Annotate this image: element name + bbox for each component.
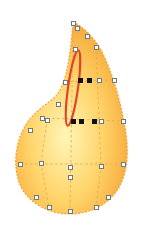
control-point-handle[interactable] <box>97 78 102 83</box>
control-point-handle[interactable] <box>121 119 126 124</box>
selected-control-point-handle[interactable] <box>92 119 97 124</box>
control-point-handle[interactable] <box>56 102 61 107</box>
control-point-handle[interactable] <box>34 195 39 200</box>
control-point-handle[interactable] <box>121 162 126 167</box>
selected-control-point-handle[interactable] <box>87 78 92 83</box>
control-point-handle[interactable] <box>99 164 104 169</box>
control-point-handle[interactable] <box>68 209 73 214</box>
control-point-handle[interactable] <box>73 47 78 52</box>
control-point-handle[interactable] <box>18 162 23 167</box>
control-point-handle[interactable] <box>106 195 111 200</box>
control-point-handle[interactable] <box>99 119 104 124</box>
selected-control-point-handle[interactable] <box>71 119 76 124</box>
control-point-handle[interactable] <box>112 78 117 83</box>
control-point-handle[interactable] <box>28 128 33 133</box>
control-point-handle[interactable] <box>75 26 80 31</box>
control-point-handle[interactable] <box>94 45 99 50</box>
selected-control-point-handle[interactable] <box>78 78 83 83</box>
control-point-handle[interactable] <box>47 205 52 210</box>
selected-control-point-handle[interactable] <box>79 119 84 124</box>
control-point-handle[interactable] <box>68 165 73 170</box>
control-point-handle[interactable] <box>68 175 73 180</box>
control-point-handle[interactable] <box>63 80 68 85</box>
control-point-handle[interactable] <box>85 34 90 39</box>
control-point-handle[interactable] <box>39 161 44 166</box>
control-point-handle[interactable] <box>94 205 99 210</box>
mesh-editor-canvas[interactable] <box>0 0 143 238</box>
control-point-handle[interactable] <box>45 118 50 123</box>
